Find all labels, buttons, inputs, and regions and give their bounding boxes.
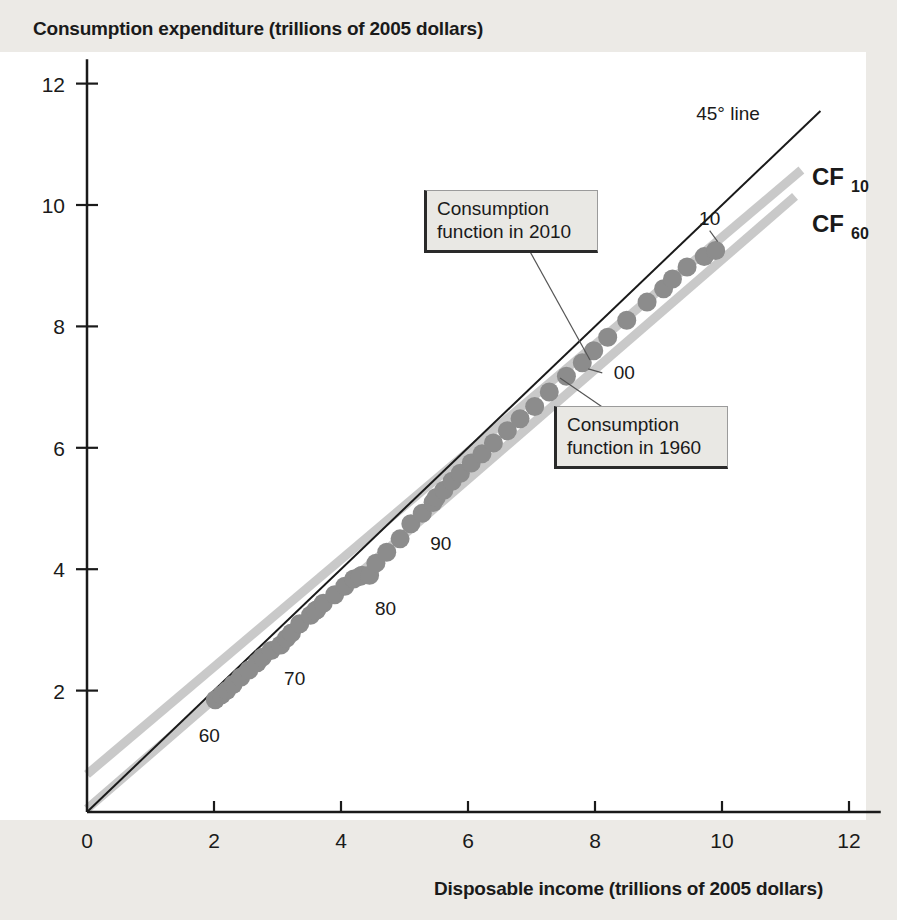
y-tick-label-8: 8 [53, 315, 65, 338]
callout-consumption-function-2010: Consumption function in 2010 [424, 190, 598, 253]
callout-2010-line1: Consumption [437, 197, 587, 220]
x-tick-label-4: 4 [335, 829, 347, 852]
data-point [638, 293, 657, 312]
data-point [706, 241, 725, 260]
point-label-90: 90 [430, 533, 451, 554]
point-label-10: 10 [699, 208, 720, 229]
callout-1960-line2: function in 1960 [567, 436, 717, 459]
y-tick-label-10: 10 [42, 194, 65, 217]
line45-label: 45° line [696, 103, 760, 124]
point-label-70: 70 [284, 668, 305, 689]
x-tick-label-8: 8 [589, 829, 601, 852]
inline-legend-labels: 45° lineCF10CF60 [696, 103, 869, 242]
cf60-label: CF [812, 210, 844, 237]
data-point [663, 270, 682, 289]
point-label-00: 00 [614, 362, 635, 383]
callout-leader-line-2010 [528, 248, 590, 360]
data-point [511, 409, 530, 428]
x-tick-label-6: 6 [462, 829, 474, 852]
data-point [678, 257, 697, 276]
data-point [617, 311, 636, 330]
data-point [525, 397, 544, 416]
axes [76, 59, 881, 812]
y-tick-label-12: 12 [42, 73, 65, 96]
y-tick-label-2: 2 [53, 680, 65, 703]
point-label-80: 80 [375, 598, 396, 619]
x-tick-label-10: 10 [710, 829, 733, 852]
callout-consumption-function-1960: Consumption function in 1960 [554, 406, 728, 469]
x-tick-label-12: 12 [837, 829, 860, 852]
consumption-function-chart: 02468101224681012 607080900010 45° lineC… [0, 0, 897, 920]
callout-2010-line2: function in 2010 [437, 220, 587, 243]
data-point [540, 382, 559, 401]
y-tick-label-4: 4 [53, 558, 65, 581]
point-label-60: 60 [199, 725, 220, 746]
y-tick-label-6: 6 [53, 437, 65, 460]
data-point [584, 341, 603, 360]
cf10-subscript: 10 [851, 178, 869, 195]
x-tick-label-2: 2 [208, 829, 220, 852]
cf10-label: CF [812, 163, 844, 190]
cf60-subscript: 60 [851, 225, 869, 242]
data-point [598, 328, 617, 347]
data-point-markers [206, 241, 725, 709]
x-tick-label-0: 0 [81, 829, 93, 852]
callout-1960-line1: Consumption [567, 413, 717, 436]
